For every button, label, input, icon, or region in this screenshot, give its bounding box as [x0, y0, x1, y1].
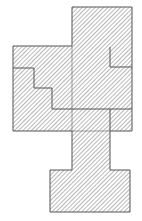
hatched-polygon-diagram	[0, 0, 142, 221]
figure-canvas	[0, 0, 142, 221]
